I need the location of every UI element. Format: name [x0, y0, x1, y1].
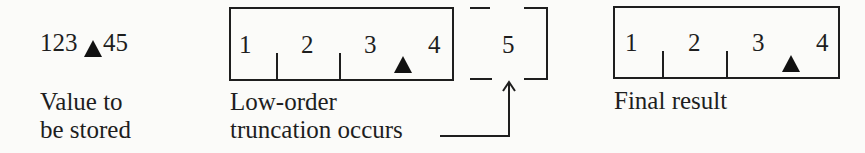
final-digit-2: 2 [688, 30, 701, 55]
final-digit-3: 3 [752, 30, 765, 55]
final-digit-1: 1 [625, 30, 638, 55]
decimal-point-triangle-icon [782, 55, 800, 72]
final-digit-4: 4 [816, 30, 829, 55]
final-divider-2 [726, 51, 728, 78]
final-result-caption: Final result [614, 86, 727, 115]
final-divider-1 [662, 51, 664, 78]
